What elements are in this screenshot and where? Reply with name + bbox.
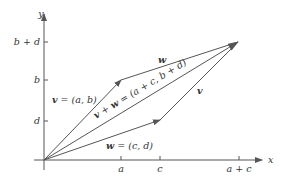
x-axis-label: x bbox=[268, 154, 274, 165]
y-tick-label-b: b bbox=[34, 74, 40, 85]
label-w-equation: w = (c, d) bbox=[106, 140, 153, 151]
y-tick-label-d: d bbox=[34, 115, 40, 126]
label-v-plus-w-equation: v + w = (a + c, b + d) bbox=[91, 56, 188, 120]
vector-diagram: a c a + c x b + d b d y v = (a, b) w = (… bbox=[0, 0, 282, 183]
y-axis-label: y bbox=[37, 8, 44, 19]
label-w-top: w bbox=[158, 54, 167, 65]
x-tick-label-c: c bbox=[157, 163, 163, 174]
y-tick-label-b-plus-d: b + d bbox=[14, 36, 40, 47]
label-v-right: v bbox=[197, 85, 203, 96]
x-tick-label-a: a bbox=[118, 163, 124, 174]
vector-v-translated bbox=[160, 42, 238, 120]
x-tick-label-a-plus-c: a + c bbox=[227, 163, 253, 174]
label-v-equation: v = (a, b) bbox=[52, 94, 97, 105]
